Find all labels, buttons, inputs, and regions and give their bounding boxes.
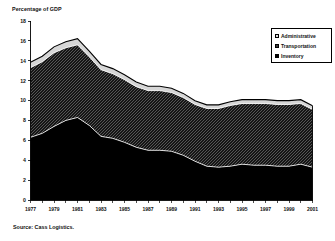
legend-swatch-transportation-icon [275, 44, 279, 48]
y-tick-label: 0 [23, 197, 26, 203]
x-tick-label: 1989 [166, 206, 177, 212]
y-tick-label: 6 [23, 137, 26, 143]
source-note: Source: Cass Logistics. [13, 224, 74, 230]
y-tick-label: 18 [20, 18, 26, 24]
x-tick-labels: 1977197919811983198519871989199119931995… [25, 206, 318, 212]
y-tick-label: 16 [20, 38, 26, 44]
y-tick-label: 14 [20, 58, 26, 64]
x-tick-label: 1991 [189, 206, 200, 212]
x-tick-label: 1983 [95, 206, 106, 212]
y-tick-label: 12 [20, 78, 26, 84]
legend-item-transportation[interactable]: Transportation [275, 42, 329, 49]
x-tick-label: 1993 [213, 206, 224, 212]
y-tick-label: 10 [20, 97, 26, 103]
y-tick-labels: 024681012141618 [20, 18, 26, 203]
legend-swatch-administrative-icon [275, 34, 279, 38]
y-tick-label: 2 [23, 177, 26, 183]
legend-swatch-inventory-icon [275, 54, 279, 58]
y-tick-label: 4 [23, 157, 26, 163]
legend-label-inventory: Inventory [281, 53, 304, 59]
x-tick-label: 1979 [48, 206, 59, 212]
legend-item-administrative[interactable]: Administrative [275, 32, 329, 39]
x-tick-label: 2001 [307, 206, 318, 212]
y-tick-label: 8 [23, 117, 26, 123]
chart-figure: Percentage of GDP 024681012141618 197719… [0, 0, 335, 241]
x-tick-label: 1985 [119, 206, 130, 212]
chart-legend: Administrative Transportation Inventory [271, 28, 332, 63]
x-tick-label: 1987 [142, 206, 153, 212]
legend-item-inventory[interactable]: Inventory [275, 52, 329, 59]
legend-label-administrative: Administrative [281, 33, 316, 39]
legend-label-transportation: Transportation [281, 43, 316, 49]
x-tick-label: 1995 [236, 206, 247, 212]
x-tick-label: 1997 [260, 206, 271, 212]
x-tick-label: 1977 [25, 206, 36, 212]
x-tick-label: 1999 [283, 206, 294, 212]
x-tick-label: 1981 [72, 206, 83, 212]
